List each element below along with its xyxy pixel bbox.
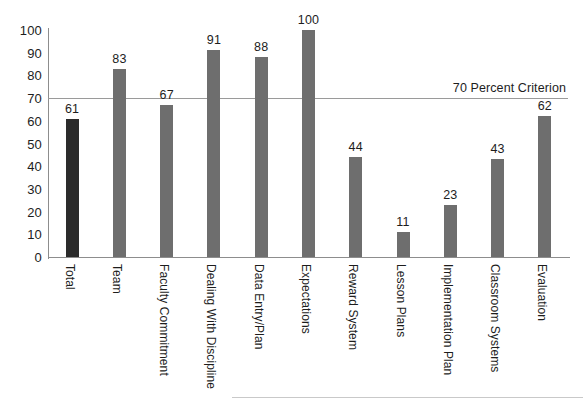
y-axis-tick-label: 10 <box>27 227 42 242</box>
y-axis-tick-label: 40 <box>27 159 42 174</box>
bar-value-label: 91 <box>207 33 221 47</box>
x-axis-category-label: Classroom Systems <box>488 264 502 372</box>
bar-value-label: 62 <box>538 99 552 113</box>
x-axis-category-label: Total <box>63 264 77 290</box>
x-axis-category-label: Team <box>110 264 124 294</box>
x-axis-line <box>48 257 570 258</box>
bar-value-label: 11 <box>396 215 409 229</box>
y-axis-tick-label: 50 <box>27 136 42 151</box>
plot-area: 70 Percent Criterion 6183679188100441123… <box>48 30 568 257</box>
x-axis-category-label: Dealing With Discipline <box>204 264 218 389</box>
bar-chart: 0102030405060708090100 70 Percent Criter… <box>0 0 583 402</box>
x-axis-category-label: Reward System <box>346 264 360 350</box>
bar[interactable] <box>349 157 362 257</box>
x-axis-category-label: Evaluation <box>535 264 549 321</box>
bar[interactable] <box>207 50 220 257</box>
bar-value-label: 100 <box>298 13 319 27</box>
bar[interactable] <box>444 205 457 257</box>
x-axis-category-label: Implementation Plan <box>441 264 455 375</box>
bar[interactable] <box>397 232 410 257</box>
x-axis-category-label: Faculty Commitment <box>157 264 171 376</box>
bar[interactable] <box>113 69 126 257</box>
bar-value-label: 88 <box>254 40 268 54</box>
y-axis-tick-label: 30 <box>27 181 42 196</box>
scan-edge-line <box>232 397 583 398</box>
y-axis-tick-label: 80 <box>27 68 42 83</box>
bar[interactable] <box>491 159 504 257</box>
bar-value-label: 61 <box>65 102 79 116</box>
bar-value-label: 44 <box>349 140 363 154</box>
bar-value-label: 23 <box>443 188 457 202</box>
y-axis-tick-label: 60 <box>27 113 42 128</box>
y-axis-tick-label: 100 <box>20 23 42 38</box>
bar[interactable] <box>160 105 173 257</box>
bar[interactable] <box>302 30 315 257</box>
bar[interactable] <box>255 57 268 257</box>
criterion-label: 70 Percent Criterion <box>453 81 566 95</box>
x-axis-category-label: Expectations <box>299 264 313 334</box>
y-axis-tick-label: 70 <box>27 91 42 106</box>
bar[interactable] <box>66 119 79 257</box>
bar-value-label: 43 <box>490 142 504 156</box>
x-axis-category-label: Data Entry/Plan <box>252 264 266 350</box>
bar[interactable] <box>538 116 551 257</box>
y-axis-tick-label: 0 <box>35 250 42 265</box>
bar-value-label: 67 <box>160 88 174 102</box>
y-axis-tick-labels: 0102030405060708090100 <box>10 30 42 257</box>
y-axis-tick-label: 90 <box>27 45 42 60</box>
x-axis-category-label: Lesson Plans <box>394 264 408 337</box>
y-axis-tick-label: 20 <box>27 204 42 219</box>
bar-value-label: 83 <box>112 52 126 66</box>
